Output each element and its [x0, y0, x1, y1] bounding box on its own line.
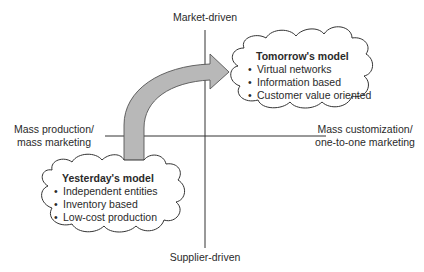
- bullet-icon: •: [54, 185, 58, 198]
- bullet-icon: •: [248, 76, 252, 89]
- transition-arrow: [124, 54, 229, 168]
- axis-right-line-1: Mass customization/: [306, 123, 424, 136]
- list-item: •Independent entities: [54, 185, 158, 198]
- list-item-text: Information based: [257, 76, 341, 88]
- yesterday-model-list: •Independent entities •Inventory based •…: [54, 185, 158, 224]
- list-item: •Information based: [248, 76, 371, 89]
- tomorrow-model-box: Tomorrow's model •Virtual networks •Info…: [248, 50, 371, 102]
- axis-left-line-1: Mass production/: [2, 123, 106, 136]
- axis-label-market-driven: Market-driven: [150, 11, 260, 24]
- list-item-text: Customer value oriented: [257, 89, 371, 101]
- bullet-icon: •: [54, 198, 58, 211]
- list-item: •Virtual networks: [248, 63, 371, 76]
- list-item: •Customer value oriented: [248, 89, 371, 102]
- diagram-canvas: Market-driven Supplier-driven Mass produ…: [0, 0, 424, 272]
- list-item-text: Virtual networks: [257, 63, 332, 75]
- bullet-icon: •: [248, 63, 252, 76]
- bullet-icon: •: [248, 89, 252, 102]
- yesterday-model-title: Yesterday's model: [54, 172, 158, 185]
- yesterday-model-box: Yesterday's model •Independent entities …: [54, 172, 158, 224]
- list-item: •Inventory based: [54, 198, 158, 211]
- list-item: •Low-cost production: [54, 211, 158, 224]
- list-item-text: Low-cost production: [63, 211, 157, 223]
- bullet-icon: •: [54, 211, 58, 224]
- list-item-text: Independent entities: [63, 185, 158, 197]
- axis-label-supplier-driven: Supplier-driven: [150, 251, 260, 264]
- list-item-text: Inventory based: [63, 198, 138, 210]
- axis-right-line-2: one-to-one marketing: [306, 136, 424, 149]
- axis-label-mass-production: Mass production/ mass marketing: [2, 123, 106, 149]
- tomorrow-model-list: •Virtual networks •Information based •Cu…: [248, 63, 371, 102]
- axis-label-mass-customization: Mass customization/ one-to-one marketing: [306, 123, 424, 149]
- axis-left-line-2: mass marketing: [2, 136, 106, 149]
- tomorrow-model-title: Tomorrow's model: [248, 50, 371, 63]
